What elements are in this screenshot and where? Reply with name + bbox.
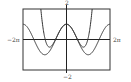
y-max-label: 2 — [65, 0, 69, 6]
x-min-label: −2π — [7, 37, 20, 43]
y-min-label: −2 — [63, 74, 72, 80]
x-max-label: 2π — [113, 37, 121, 43]
